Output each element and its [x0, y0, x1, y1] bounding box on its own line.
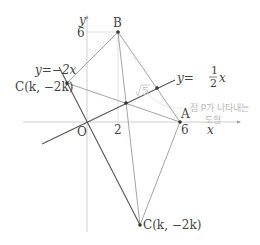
line-neg2x-prefix: y=−2: [34, 63, 70, 77]
origin-label: O: [77, 125, 87, 139]
coordinate-diagram: y x O 6 2 6 B A C(k, −2k) C(k, −2k) y=−2…: [0, 0, 260, 245]
point-C-upper-label: C(k, −2k): [15, 80, 73, 94]
line-half-x-var: x: [219, 71, 226, 85]
point-intersection-1: [124, 101, 128, 105]
point-B-label: B: [113, 16, 122, 30]
y-axis-arrow-icon: [86, 15, 89, 19]
sqrt5-annotation: 5: [136, 85, 150, 98]
line-neg2x-label: y=−2x: [34, 63, 77, 77]
x-tick-2: 2: [114, 123, 122, 137]
line-neg2x-var: x: [70, 63, 77, 77]
line-half-x-prefix: y=: [176, 71, 194, 85]
y-axis-label: y: [78, 13, 86, 27]
x-tick-6: 6: [181, 123, 189, 137]
line-half-x-denominator: 2: [210, 77, 217, 90]
point-intersection-2: [155, 86, 159, 90]
y-tick-6: 6: [77, 26, 85, 40]
x-axis-arrow-icon: [237, 121, 241, 124]
point-C-lower: [138, 223, 142, 227]
locus-annotation-line1: 점 P가 나타내는: [190, 102, 249, 113]
segment-A-Clower: [140, 122, 180, 225]
point-B: [116, 30, 120, 34]
point-A-label: A: [180, 107, 190, 121]
line-half-x-label: y= 1 2 x: [176, 64, 226, 90]
guide-lines: [87, 32, 118, 122]
locus-annotation-line2: 도형: [205, 115, 221, 125]
segment-B-A: [118, 32, 180, 122]
sqrt5-radicand: 5: [142, 85, 149, 98]
line-half-x-numerator: 1: [211, 64, 218, 77]
diagram-canvas: y x O 6 2 6 B A C(k, −2k) C(k, −2k) y=−2…: [0, 0, 260, 245]
point-C-lower-label: C(k, −2k): [143, 218, 201, 232]
x-axis-label: x: [207, 123, 214, 137]
